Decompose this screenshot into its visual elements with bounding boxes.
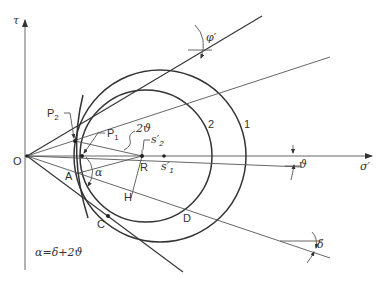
two-theta-leader (124, 131, 135, 150)
P2-leader (64, 113, 74, 138)
A-label: A (65, 170, 73, 182)
phi-label: φ′ (206, 31, 217, 44)
point-P2 (73, 139, 77, 143)
s2-label: s′2 (151, 133, 164, 148)
point-O (25, 154, 29, 158)
alpha-arc (86, 157, 93, 186)
point-P1 (80, 154, 84, 158)
circle-1-label: 1 (244, 118, 250, 130)
R-label: R (140, 161, 148, 173)
circle-2-label: 2 (208, 118, 214, 130)
H-label: H (124, 191, 132, 203)
delta-line (27, 156, 330, 258)
formula-label: α=δ+2ϑ (35, 246, 82, 259)
delta-arc-top (312, 232, 317, 248)
P1-label: P1 (107, 127, 119, 142)
mohr-circle-diagram: τ σ′ O 1 2 P2 P1 2ϑ s′2 R s′1 A α H C D … (0, 0, 384, 287)
delta-arc-bottom (307, 252, 314, 263)
theta-label: ϑ (299, 158, 307, 171)
tau-axis-label: τ (13, 14, 20, 27)
P2-label: P2 (47, 107, 59, 122)
origin-label: O (13, 155, 22, 167)
C-label: C (97, 218, 105, 230)
point-C (106, 214, 110, 218)
s2-leader (143, 140, 150, 150)
upper-envelope-line (27, 16, 262, 156)
sigma-axis-label: σ′ (360, 160, 371, 173)
s1-label: s′1 (161, 160, 174, 175)
D-label: D (183, 212, 191, 224)
delta-label: δ (317, 238, 324, 251)
theta-arc-bottom (291, 165, 294, 180)
two-theta-label: 2ϑ (135, 122, 151, 135)
point-s1 (162, 154, 166, 158)
point-R (140, 154, 144, 158)
alpha-label: α (95, 166, 103, 179)
P2-R-line (75, 141, 142, 156)
